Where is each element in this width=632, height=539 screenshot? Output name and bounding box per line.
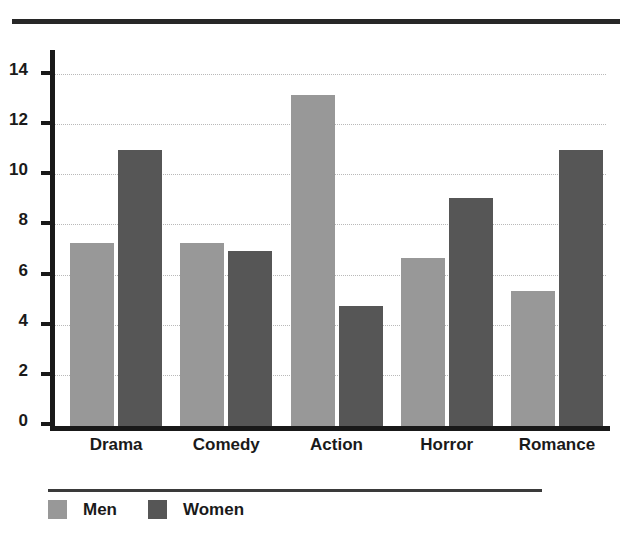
y-axis-tick-label: 2: [19, 361, 28, 380]
bar-group: [291, 50, 383, 426]
legend-item-men: Men: [48, 498, 117, 520]
bar-comedy-women: [228, 251, 272, 426]
y-axis-tick-2: 2: [41, 372, 51, 376]
bar-action-men: [291, 95, 335, 426]
y-axis-tick-4: 4: [41, 322, 51, 326]
x-axis-label-drama: Drama: [70, 434, 162, 456]
x-axis-label-horror: Horror: [401, 434, 493, 456]
y-axis-tick-6: 6: [41, 272, 51, 276]
legend-swatch-women: [148, 500, 167, 519]
bar-horror-women: [449, 198, 493, 426]
bar-group: [511, 50, 603, 426]
y-axis-tick-label: 4: [19, 311, 28, 330]
plot-area: 02468101214: [50, 50, 606, 426]
y-axis-tick-label: 8: [19, 210, 28, 229]
legend-label-women: Women: [183, 500, 244, 519]
bar-group: [401, 50, 493, 426]
bar-drama-women: [118, 150, 162, 426]
legend-swatch-men: [48, 500, 67, 519]
x-axis-label-comedy: Comedy: [180, 434, 272, 456]
bar-drama-men: [70, 243, 114, 426]
y-axis-tick-0: 0: [41, 422, 51, 426]
legend-label-men: Men: [83, 500, 117, 519]
bar-chart: 02468101214 DramaComedyActionHorrorRoman…: [0, 28, 632, 488]
legend-item-women: Women: [148, 498, 244, 520]
bar-group: [70, 50, 162, 426]
x-axis-category-labels: DramaComedyActionHorrorRomance: [55, 434, 611, 464]
bar-comedy-men: [180, 243, 224, 426]
x-axis-label-romance: Romance: [511, 434, 603, 456]
y-axis-tick-14: 14: [41, 71, 51, 75]
y-axis-tick-label: 14: [9, 60, 28, 79]
x-axis-label-action: Action: [291, 434, 383, 456]
y-axis-tick-label: 10: [9, 160, 28, 179]
y-axis-tick-label: 6: [19, 261, 28, 280]
y-axis-tick-label: 12: [9, 110, 28, 129]
bar-action-women: [339, 306, 383, 426]
y-axis-tick-10: 10: [41, 171, 51, 175]
legend-divider: [48, 489, 542, 492]
top-divider: [12, 19, 620, 24]
bar-series-container: [55, 50, 606, 426]
bar-horror-men: [401, 258, 445, 426]
x-axis-line: [50, 426, 610, 431]
y-axis-tick-12: 12: [41, 121, 51, 125]
bar-romance-men: [511, 291, 555, 426]
bar-group: [180, 50, 272, 426]
y-axis-tick-label: 0: [19, 411, 28, 430]
y-axis-tick-8: 8: [41, 221, 51, 225]
bar-romance-women: [559, 150, 603, 426]
